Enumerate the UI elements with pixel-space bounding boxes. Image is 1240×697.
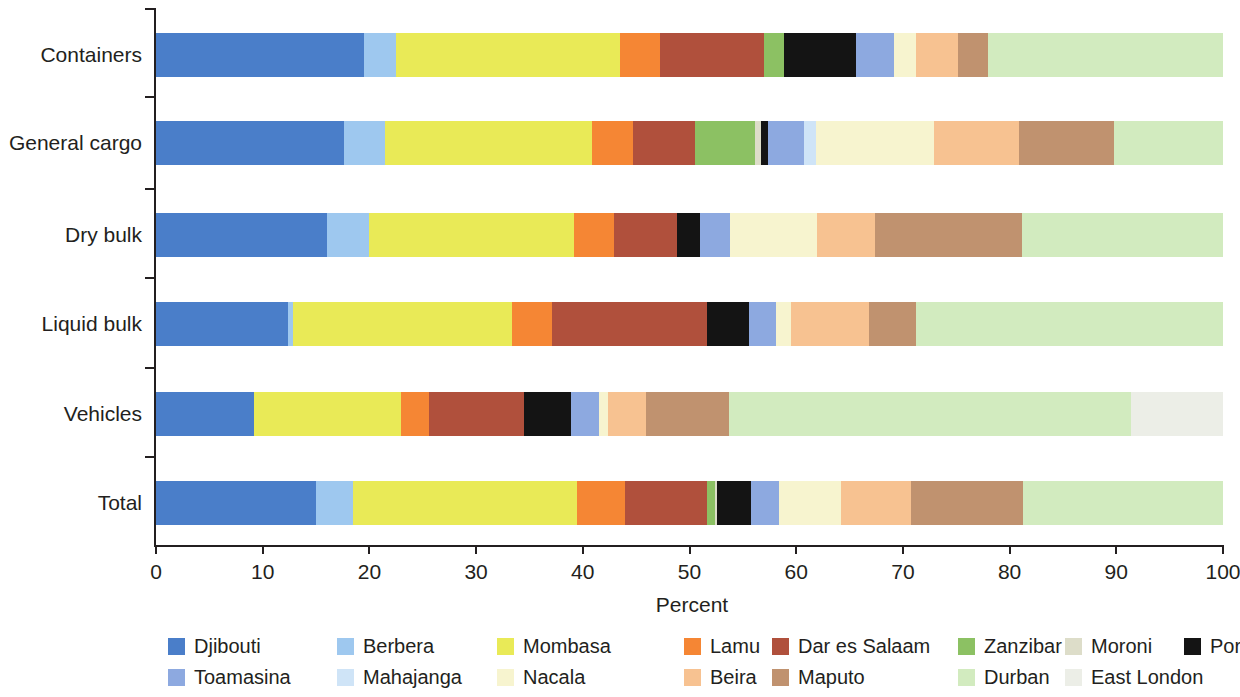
bar-segment	[761, 121, 768, 165]
bar-segment	[934, 121, 1019, 165]
bar-segment	[385, 121, 592, 165]
bar-segment	[254, 392, 401, 436]
bar-segment	[571, 392, 599, 436]
legend-swatch-icon	[1065, 638, 1082, 655]
bar-segment	[156, 213, 327, 257]
bar-segment	[344, 121, 386, 165]
bar-segment	[353, 481, 577, 525]
bar-containers	[156, 33, 1223, 77]
legend-item[interactable]: Toamasina	[168, 667, 291, 687]
bar-segment	[841, 481, 911, 525]
chart-root: 0102030405060708090100 ContainersGeneral…	[0, 0, 1240, 697]
category-label: General cargo	[9, 131, 142, 155]
x-axis-tick	[795, 545, 797, 554]
bar-segment	[894, 33, 915, 77]
legend-item[interactable]: Mombasa	[497, 636, 611, 656]
legend-item[interactable]: Maputo	[772, 667, 865, 687]
legend-item[interactable]: East London	[1065, 667, 1203, 687]
bar-segment	[327, 213, 370, 257]
bar-segment	[599, 392, 609, 436]
legend-item[interactable]: Dar es Salaam	[772, 636, 930, 656]
legend-item[interactable]: Zanzibar	[958, 636, 1062, 656]
bar-segment	[695, 121, 755, 165]
x-axis-title-text: Percent	[656, 593, 728, 616]
x-axis-tick	[155, 545, 157, 554]
bar-segment	[764, 33, 784, 77]
legend-item[interactable]: Durban	[958, 667, 1050, 687]
legend-label: Mahajanga	[363, 667, 462, 687]
bar-segment	[817, 213, 875, 257]
bar-segment	[988, 33, 1223, 77]
bar-segment	[660, 33, 765, 77]
bar-segment	[1114, 121, 1223, 165]
legend-swatch-icon	[958, 669, 975, 686]
bar-segment	[396, 33, 620, 77]
legend-label: Moroni	[1091, 636, 1152, 656]
legend-item[interactable]: Djibouti	[168, 636, 261, 656]
x-axis-tick-label: 30	[464, 560, 487, 584]
plot-area: 0102030405060708090100 ContainersGeneral…	[0, 0, 1240, 560]
bar-segment	[958, 33, 988, 77]
x-axis-tick	[902, 545, 904, 554]
bar-segment	[677, 213, 700, 257]
legend-swatch-icon	[772, 669, 789, 686]
bar-segment	[608, 392, 645, 436]
legend-swatch-icon	[958, 638, 975, 655]
x-axis-tick	[689, 545, 691, 554]
y-axis-tick	[145, 367, 155, 369]
legend-label: Port Louis	[1210, 636, 1240, 656]
bar-segment	[401, 392, 429, 436]
legend-item[interactable]: Lamu	[684, 636, 760, 656]
legend-label: Mombasa	[523, 636, 611, 656]
legend-item[interactable]: Nacala	[497, 667, 585, 687]
legend-item[interactable]: Moroni	[1065, 636, 1152, 656]
bar-segment	[592, 121, 633, 165]
bar-segment	[429, 392, 524, 436]
legend-swatch-icon	[497, 638, 514, 655]
x-axis-tick-label: 40	[571, 560, 594, 584]
legend-label: Zanzibar	[984, 636, 1062, 656]
bar-segment	[364, 33, 396, 77]
legend-item[interactable]: Port Louis	[1184, 636, 1240, 656]
chart-legend: DjiboutiBerberaMombasaLamuDar es SalaamZ…	[0, 636, 1240, 697]
legend-item[interactable]: Mahajanga	[337, 667, 462, 687]
y-axis-tick	[145, 456, 155, 458]
bar-segment	[512, 302, 551, 346]
legend-swatch-icon	[684, 669, 701, 686]
bar-segment	[620, 33, 659, 77]
legend-label: Lamu	[710, 636, 760, 656]
bar-segment	[156, 121, 344, 165]
bar-segment	[749, 302, 776, 346]
bar-general-cargo	[156, 121, 1223, 165]
category-label: Liquid bulk	[42, 312, 142, 336]
x-axis-tick-label: 100	[1205, 560, 1240, 584]
legend-label: Berbera	[363, 636, 434, 656]
legend-label: Nacala	[523, 667, 585, 687]
bar-total	[156, 481, 1223, 525]
y-axis-tick	[145, 96, 155, 98]
legend-item[interactable]: Beira	[684, 667, 757, 687]
x-axis-tick-label: 10	[251, 560, 274, 584]
bar-segment	[804, 121, 817, 165]
legend-item[interactable]: Berbera	[337, 636, 434, 656]
bar-segment	[776, 302, 791, 346]
bar-segment	[779, 481, 841, 525]
x-axis-tick	[582, 545, 584, 554]
legend-swatch-icon	[337, 669, 354, 686]
category-label: Containers	[40, 43, 142, 67]
bar-segment	[1019, 121, 1114, 165]
bar-segment	[156, 392, 254, 436]
legend-swatch-icon	[168, 669, 185, 686]
bar-segment	[156, 33, 364, 77]
bar-segment	[552, 302, 707, 346]
bar-segment	[369, 213, 574, 257]
bar-segment	[574, 213, 613, 257]
legend-label: Durban	[984, 667, 1050, 687]
bar-segment	[1023, 481, 1223, 525]
x-axis-tick	[1009, 545, 1011, 554]
x-axis-tick	[262, 545, 264, 554]
legend-label: East London	[1091, 667, 1203, 687]
category-label: Total	[98, 491, 142, 515]
bar-segment	[1022, 213, 1223, 257]
bar-segment	[869, 302, 916, 346]
